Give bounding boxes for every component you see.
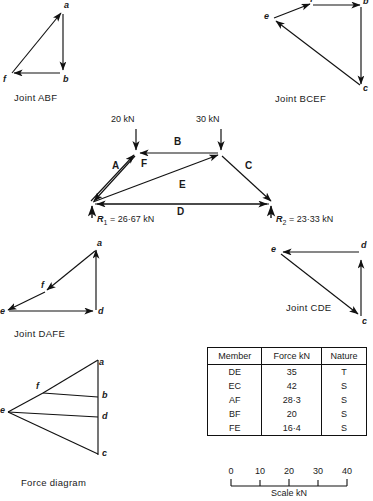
vertex-label-e: e xyxy=(264,11,269,21)
joint-bcef-diagram xyxy=(255,0,373,92)
vertex-label-e: e xyxy=(271,244,276,254)
cell-force: 28·3 xyxy=(262,393,322,407)
reaction-value-r1: = 26·67 kN xyxy=(110,214,154,224)
column-header-member: Member xyxy=(208,348,262,365)
load-label-1: 20 kN xyxy=(111,114,135,124)
cell-member: DE xyxy=(208,365,262,380)
scale-tick-20: 20 xyxy=(284,466,294,476)
vertex-label-b: b xyxy=(363,0,369,6)
vertex-label-a: a xyxy=(64,0,69,10)
table-row: FE 16·4 S xyxy=(208,421,367,436)
cell-force: 35 xyxy=(262,365,322,380)
member-label-f: F xyxy=(141,158,147,169)
member-label-d: D xyxy=(177,206,184,217)
caption-joint-dafe: Joint DAFE xyxy=(14,328,65,339)
table-row: BF 20 S xyxy=(208,407,367,421)
vector-fe xyxy=(8,292,45,310)
vertex-label-d: d xyxy=(361,240,367,250)
vertex-label-e: e xyxy=(0,306,5,316)
member-label-a: A xyxy=(112,160,119,171)
caption-joint-bcef: Joint BCEF xyxy=(275,93,326,104)
vertex-label-f: f xyxy=(36,381,39,391)
scale-tick-30: 30 xyxy=(313,466,323,476)
scale-bar: 0 10 20 30 40 Scale kN xyxy=(228,466,350,498)
vertex-label-b: b xyxy=(63,74,69,84)
reaction-sub-r2: 2 xyxy=(283,219,287,226)
cell-nature: S xyxy=(322,393,367,407)
vector-ce xyxy=(276,21,360,85)
cell-nature: T xyxy=(322,365,367,380)
vertex-label-c: c xyxy=(102,448,107,458)
vertex-label-f: f xyxy=(3,74,6,84)
cell-member: FE xyxy=(208,421,262,436)
vector-af xyxy=(43,360,98,393)
figure-joint-abf: a b f Joint ABF xyxy=(0,0,130,110)
vertex-label-a: a xyxy=(99,357,104,367)
column-header-nature: Nature xyxy=(322,348,367,365)
figure-joint-cde: d e c Joint CDE xyxy=(255,240,373,345)
scale-tick-40: 40 xyxy=(342,466,352,476)
vertex-label-a: a xyxy=(97,238,102,248)
cell-force: 16·4 xyxy=(262,421,322,436)
figure-truss-space-diagram: 20 kN 30 kN A B C D E F R1 = 26·67 kN R2… xyxy=(85,118,373,223)
vertex-label-b: b xyxy=(102,390,108,400)
vector-fb xyxy=(43,393,98,397)
figure-force-diagram: a f b d e c Force diagram xyxy=(0,355,140,501)
caption-joint-abf: Joint ABF xyxy=(14,92,57,103)
vector-ec xyxy=(8,412,98,454)
table-header-row: Member Force kN Nature xyxy=(208,348,367,365)
vector-ef xyxy=(274,4,310,18)
member-label-c: C xyxy=(245,160,252,171)
column-header-force: Force kN xyxy=(262,348,322,365)
reaction-value-r2: = 23·33 kN xyxy=(289,214,333,224)
table-row: AF 28·3 S xyxy=(208,393,367,407)
cell-force: 42 xyxy=(262,379,322,393)
table-row: DE 35 T xyxy=(208,365,367,380)
scale-tick-labels: 0 10 20 30 40 xyxy=(228,466,350,478)
vertex-label-c: c xyxy=(363,83,368,93)
vector-fa xyxy=(12,13,61,73)
cell-force: 20 xyxy=(262,407,322,421)
vertex-label-d: d xyxy=(102,411,108,421)
vertex-label-d: d xyxy=(98,306,104,316)
scale-tick-10: 10 xyxy=(255,466,265,476)
cell-member: AF xyxy=(208,393,262,407)
member-force-table: Member Force kN Nature DE 35 T EC 42 S A… xyxy=(207,347,367,436)
vertex-label-f: f xyxy=(41,280,44,290)
truss-diagram xyxy=(85,118,315,218)
figure-joint-bcef: f b e c Joint BCEF xyxy=(255,0,373,110)
vector-ed xyxy=(8,412,98,417)
scale-caption: Scale kN xyxy=(228,488,350,498)
caption-force-diagram: Force diagram xyxy=(21,477,86,488)
table-row: EC 42 S xyxy=(208,379,367,393)
vertex-label-e: e xyxy=(0,405,5,415)
figure-joint-dafe: a d e f Joint DAFE xyxy=(0,240,130,345)
vector-fe xyxy=(8,393,43,412)
cell-nature: S xyxy=(322,421,367,436)
caption-joint-cde: Joint CDE xyxy=(286,302,331,313)
vertex-label-f: f xyxy=(310,0,313,4)
vertex-label-c: c xyxy=(362,316,367,326)
vector-af xyxy=(47,251,95,290)
reaction-label-r2: R2 = 23·33 kN xyxy=(276,214,333,226)
cell-member: BF xyxy=(208,407,262,421)
cell-nature: S xyxy=(322,407,367,421)
reaction-label-r1: R1 = 26·67 kN xyxy=(97,214,154,226)
member-label-e: E xyxy=(179,179,186,190)
member-label-b: B xyxy=(174,136,181,147)
scale-ruler xyxy=(228,478,354,487)
load-label-2: 30 kN xyxy=(196,114,220,124)
cell-nature: S xyxy=(322,379,367,393)
scale-tick-0: 0 xyxy=(228,466,233,476)
cell-member: EC xyxy=(208,379,262,393)
table-body: DE 35 T EC 42 S AF 28·3 S BF 20 S FE 16·… xyxy=(208,365,367,436)
reaction-sub-r1: 1 xyxy=(104,219,108,226)
